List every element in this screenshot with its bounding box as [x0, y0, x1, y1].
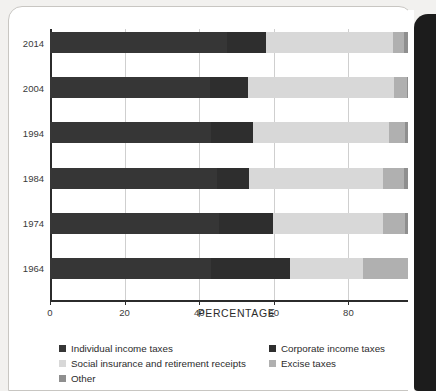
legend-item-other: Other — [59, 373, 96, 384]
y-axis-tick-label: 1964 — [23, 263, 44, 274]
legend-item-corporate-income-taxes: Corporate income taxes — [269, 343, 385, 354]
x-axis-tick — [50, 300, 51, 305]
chart-legend: Individual income taxes Corporate income… — [59, 343, 409, 388]
bar-segment — [50, 168, 217, 189]
bar-row — [50, 213, 423, 234]
x-axis-tick — [125, 300, 126, 305]
legend-label: Corporate income taxes — [281, 343, 385, 354]
x-axis-line — [50, 300, 423, 302]
bar-segment — [383, 168, 404, 189]
legend-item-individual-income-taxes: Individual income taxes — [59, 343, 173, 354]
y-axis-tick-label: 2014 — [23, 37, 44, 48]
bar-segment — [211, 258, 290, 279]
plot-area: 020406080100 201420041994198419741964 — [50, 29, 423, 299]
bar-segment — [50, 258, 211, 279]
y-axis-tick-label: 1974 — [23, 218, 44, 229]
legend-swatch-icon — [59, 360, 66, 367]
x-axis-tick — [199, 300, 200, 305]
bar-segment — [273, 213, 382, 234]
chart-card: 020406080100 201420041994198419741964 PE… — [8, 6, 413, 391]
bar-row — [50, 258, 423, 279]
x-axis-title: PERCENTAGE — [50, 307, 423, 319]
legend-row: Individual income taxes Corporate income… — [59, 343, 409, 358]
bar-segment — [248, 77, 393, 98]
y-axis-tick-label: 1984 — [23, 173, 44, 184]
bar-segment — [266, 32, 392, 53]
legend-label: Social insurance and retirement receipts — [71, 358, 246, 369]
bar-segment — [389, 122, 404, 143]
bar-segment — [50, 77, 210, 98]
page-background: 020406080100 201420041994198419741964 PE… — [0, 0, 436, 391]
bar-segment — [219, 213, 274, 234]
bar-segment — [363, 258, 409, 279]
legend-label: Other — [71, 373, 96, 384]
bar-segment — [217, 168, 249, 189]
bar-segment — [249, 168, 383, 189]
legend-swatch-icon — [269, 360, 276, 367]
bar-segment — [210, 77, 248, 98]
bar-segment — [50, 122, 211, 143]
bar-segment — [50, 213, 219, 234]
bar-row — [50, 122, 423, 143]
legend-label: Excise taxes — [281, 358, 336, 369]
legend-swatch-icon — [59, 345, 66, 352]
bar-segment — [393, 32, 405, 53]
book-spine — [414, 14, 436, 391]
bar-segment — [253, 122, 390, 143]
legend-swatch-icon — [269, 345, 276, 352]
legend-row: Social insurance and retirement receipts… — [59, 358, 409, 373]
bar-segment — [383, 213, 405, 234]
x-axis-tick — [348, 300, 349, 305]
bar-row — [50, 168, 423, 189]
x-axis-tick — [274, 300, 275, 305]
legend-label: Individual income taxes — [71, 343, 173, 354]
bar-row — [50, 32, 423, 53]
stacked-bar-chart: 020406080100 201420041994198419741964 PE… — [9, 7, 414, 337]
legend-row: Other — [59, 373, 409, 388]
bar-segment — [394, 77, 408, 98]
y-axis-tick-label: 1994 — [23, 127, 44, 138]
bar-segment — [50, 32, 227, 53]
bar-segment — [290, 258, 363, 279]
legend-swatch-icon — [59, 375, 66, 382]
legend-item-excise-taxes: Excise taxes — [269, 358, 336, 369]
y-axis-tick-label: 2004 — [23, 82, 44, 93]
legend-item-social-insurance-and-retirement-receipts: Social insurance and retirement receipts — [59, 358, 246, 369]
bar-segment — [227, 32, 267, 53]
bar-row — [50, 77, 423, 98]
bar-segment — [211, 122, 253, 143]
